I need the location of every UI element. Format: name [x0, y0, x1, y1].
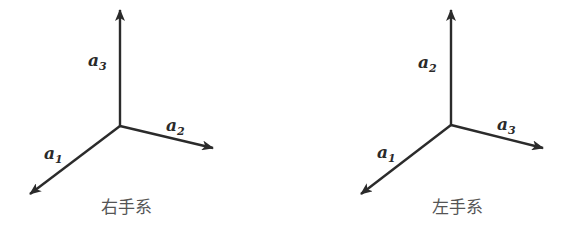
- caption-right-handed: 右手系: [101, 197, 152, 217]
- caption-left-handed: 左手系: [432, 197, 483, 217]
- coordinate-systems-diagram: a3 a2 a1 右手系 a2 a3 a1 左手系: [0, 0, 570, 234]
- label-a1: a1: [44, 143, 63, 166]
- right-handed-system: a3 a2 a1 右手系: [30, 10, 213, 217]
- label-a3: a3: [497, 114, 516, 137]
- axis-a1-arrow: [361, 125, 451, 194]
- label-a2: a2: [166, 115, 185, 138]
- label-a1: a1: [377, 142, 396, 165]
- label-a3: a3: [88, 50, 107, 73]
- left-handed-system: a2 a3 a1 左手系: [361, 10, 543, 217]
- label-a2: a2: [418, 52, 437, 75]
